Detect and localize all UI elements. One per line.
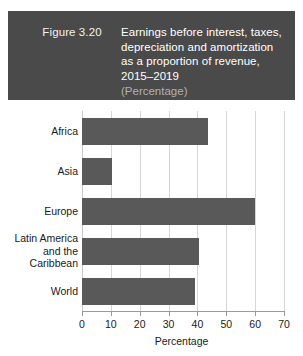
figure-title-line-4: 2015–2019 xyxy=(121,69,287,84)
x-tick-label-30: 30 xyxy=(154,318,184,330)
x-tick-0 xyxy=(82,311,83,316)
category-label-latin-america-and-the-caribbean: Latin Americaand theCaribbean xyxy=(0,232,78,270)
figure-title-line-1: Earnings before interest, taxes, xyxy=(121,25,287,40)
figure-title-line-2: depreciation and amortization xyxy=(121,40,287,55)
x-tick-70 xyxy=(284,311,285,316)
x-tick-40 xyxy=(197,311,198,316)
x-tick-label-40: 40 xyxy=(182,318,212,330)
x-axis-title-wrap: Percentage xyxy=(0,335,303,347)
x-tick-label-50: 50 xyxy=(211,318,241,330)
x-tick-label-60: 60 xyxy=(240,318,270,330)
gridline-70 xyxy=(284,111,285,311)
bar-row xyxy=(82,118,284,145)
bar-row xyxy=(82,278,284,305)
bar-row xyxy=(82,198,284,225)
bar-row xyxy=(82,238,284,265)
bar-row xyxy=(82,158,284,185)
figure-title-line-3: as a proportion of revenue, xyxy=(121,54,287,69)
category-axis-labels: AfricaAsiaEuropeLatin Americaand theCari… xyxy=(0,111,78,311)
category-label-europe: Europe xyxy=(0,205,78,218)
figure-title-block: Earnings before interest, taxes, depreci… xyxy=(121,25,287,99)
x-tick-20 xyxy=(140,311,141,316)
x-tick-label-10: 10 xyxy=(96,318,126,330)
x-tick-10 xyxy=(111,311,112,316)
x-tick-60 xyxy=(255,311,256,316)
x-tick-50 xyxy=(226,311,227,316)
figure-header: Figure 3.20 Earnings before interest, ta… xyxy=(8,11,295,100)
figure-number: Figure 3.20 xyxy=(30,26,114,38)
x-tick-label-0: 0 xyxy=(67,318,97,330)
bar-asia xyxy=(82,158,112,185)
bar-latin-america-and-the-caribbean xyxy=(82,238,199,265)
figure-subtitle: (Percentage) xyxy=(121,84,287,99)
bar-africa xyxy=(82,118,208,145)
x-tick-label-20: 20 xyxy=(125,318,155,330)
plot-area xyxy=(82,111,284,311)
category-label-world: World xyxy=(0,285,78,298)
category-label-asia: Asia xyxy=(0,165,78,178)
bar-world xyxy=(82,278,195,305)
figure-container: Figure 3.20 Earnings before interest, ta… xyxy=(0,0,303,356)
bar-europe xyxy=(82,198,255,225)
x-tick-label-70: 70 xyxy=(269,318,299,330)
x-tick-30 xyxy=(169,311,170,316)
x-axis-title: Percentage xyxy=(95,335,209,347)
category-label-africa: Africa xyxy=(0,125,78,138)
